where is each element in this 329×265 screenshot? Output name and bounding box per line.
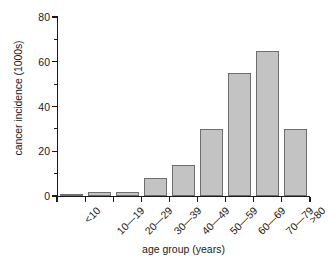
- y-tick-label: 20: [38, 146, 50, 157]
- y-tick-minor: [54, 39, 57, 40]
- x-tick: [309, 197, 310, 202]
- x-tick: [113, 197, 114, 202]
- plot-area: 020406080 <1010—1920—2930—3940—4950—5960…: [57, 17, 310, 196]
- x-tick: [85, 197, 86, 202]
- y-axis-line: [57, 16, 58, 197]
- x-tick-label: 30—39: [171, 205, 202, 236]
- bar: [256, 51, 279, 196]
- y-tick-major: [52, 106, 57, 107]
- bar: [228, 73, 251, 196]
- x-tick: [253, 197, 254, 202]
- y-axis-title: cancer incidence (1000s): [9, 0, 27, 196]
- y-tick-major: [52, 151, 57, 152]
- y-tick-major: [52, 16, 57, 17]
- x-axis-line: [57, 196, 310, 197]
- x-tick-label: 60—69: [256, 205, 287, 236]
- x-tick: [56, 197, 57, 202]
- y-tick-label: 0: [44, 191, 50, 202]
- bar: [116, 192, 139, 196]
- x-tick: [169, 197, 170, 202]
- bar: [284, 129, 307, 196]
- y-tick-minor: [54, 173, 57, 174]
- bar: [172, 165, 195, 196]
- bar: [88, 192, 111, 196]
- y-tick-label: 80: [38, 12, 50, 23]
- bar: [60, 194, 83, 196]
- y-tick-label: 40: [38, 101, 50, 112]
- x-tick-label: 40—49: [200, 205, 231, 236]
- x-tick: [141, 197, 142, 202]
- x-tick: [281, 197, 282, 202]
- x-tick-label: 20—29: [143, 205, 174, 236]
- x-tick-label: <10: [82, 205, 102, 225]
- y-tick-minor: [54, 128, 57, 129]
- y-tick-label: 60: [38, 57, 50, 68]
- y-tick-minor: [54, 84, 57, 85]
- x-tick: [225, 197, 226, 202]
- y-tick-major: [52, 61, 57, 62]
- x-axis-title: age group (years): [57, 243, 310, 255]
- chart-figure: cancer incidence (1000s) 020406080 <1010…: [0, 0, 329, 265]
- x-tick: [197, 197, 198, 202]
- bar: [144, 178, 167, 196]
- x-tick-label: 50—59: [228, 205, 259, 236]
- bar: [200, 129, 223, 196]
- x-tick-label: 10—19: [115, 205, 146, 236]
